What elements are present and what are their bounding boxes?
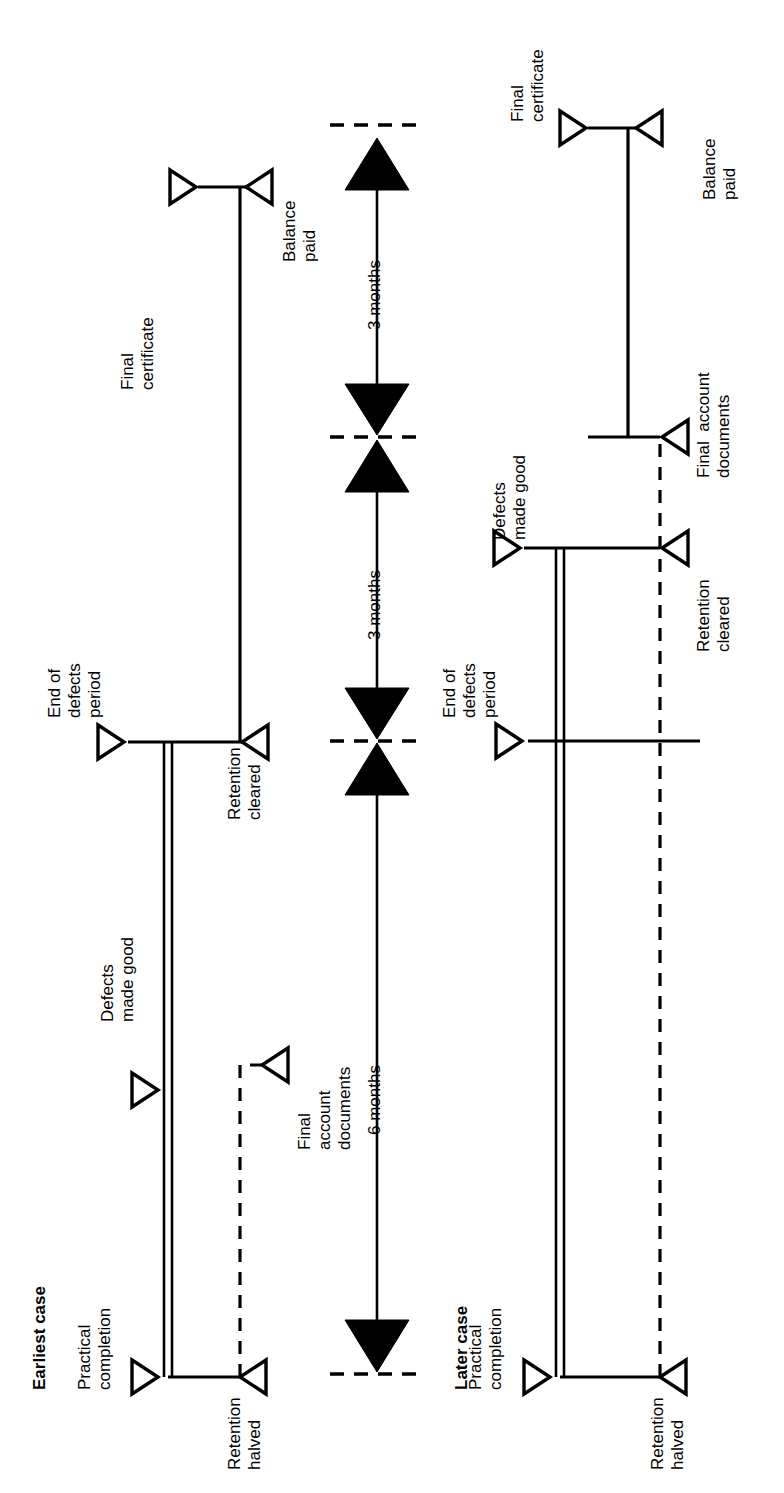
earliest-marker-final-certificate bbox=[170, 170, 196, 204]
earliest-label-final-certificate: Final certificate bbox=[118, 317, 158, 390]
dim-arrow-down-3b bbox=[345, 384, 409, 435]
dim-arrow-down-6 bbox=[345, 1320, 409, 1372]
earliest-label-practical-completion: Practical completion bbox=[75, 1308, 115, 1390]
later-marker-final-certificate bbox=[560, 111, 586, 145]
earliest-label-final-account-documents: Final account documents bbox=[295, 1067, 355, 1150]
later-label-retention-halved: Retention halved bbox=[648, 1397, 688, 1470]
later-marker-retention-cleared bbox=[662, 531, 688, 565]
earliest-dashed-final-account bbox=[240, 1065, 262, 1377]
scale-label-3-months-b: 3 months bbox=[365, 260, 385, 330]
later-label-end-of-defects-period: End of defects period bbox=[440, 663, 500, 718]
later-case-graphic bbox=[494, 111, 700, 1394]
earliest-label-retention-halved: Retention halved bbox=[225, 1397, 265, 1470]
earliest-case-heading: Earliest case bbox=[30, 1286, 50, 1390]
earliest-marker-balance-paid bbox=[246, 170, 272, 204]
scale-label-6-months: 6 months bbox=[365, 1065, 385, 1135]
earliest-marker-defects-made-good bbox=[132, 1073, 158, 1107]
earliest-label-defects-made-good: Defects made good bbox=[98, 937, 138, 1022]
earliest-label-balance-paid: Balance paid bbox=[280, 201, 320, 262]
dim-arrow-up-3a bbox=[345, 440, 409, 492]
diagram-vector-layer bbox=[0, 0, 784, 1493]
later-label-defects-made-good: Defects made good bbox=[490, 455, 530, 540]
later-label-practical-completion: Practical completion bbox=[466, 1308, 506, 1390]
later-marker-end-of-defects-period bbox=[496, 724, 522, 758]
dim-arrow-down-3a bbox=[345, 688, 409, 739]
earliest-marker-end-of-defects-period bbox=[98, 725, 124, 759]
earliest-marker-retention-halved bbox=[240, 1360, 266, 1394]
scale-label-3-months-a: 3 months bbox=[365, 570, 385, 640]
later-marker-practical-completion bbox=[524, 1360, 550, 1394]
later-label-final-certificate: Final certificate bbox=[508, 49, 548, 122]
later-label-balance-paid: Balance paid bbox=[700, 139, 740, 200]
later-marker-balance-paid bbox=[636, 111, 662, 145]
later-marker-retention-halved bbox=[660, 1360, 686, 1394]
diagram-page: Earliest case Later case Practical compl… bbox=[0, 0, 784, 1493]
later-label-retention-cleared: Retention cleared bbox=[694, 579, 734, 652]
earliest-label-end-of-defects-period: End of defects period bbox=[45, 663, 105, 718]
later-label-final-account-documents: Final account documents bbox=[694, 372, 734, 478]
earliest-label-retention-cleared: Retention cleared bbox=[225, 747, 265, 820]
dim-arrow-up-3b bbox=[345, 138, 409, 190]
dim-arrow-up-6 bbox=[345, 743, 409, 795]
later-marker-final-account-documents bbox=[662, 420, 688, 454]
earliest-marker-final-account-documents bbox=[262, 1048, 288, 1082]
earliest-marker-practical-completion bbox=[132, 1360, 158, 1394]
